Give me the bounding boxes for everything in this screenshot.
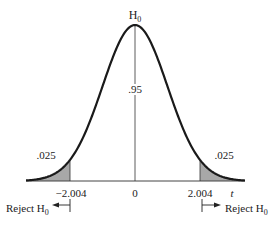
arrow-left-icon <box>52 203 59 208</box>
tick-center: 0 <box>132 187 138 199</box>
tick-right: 2.004 <box>188 187 213 199</box>
hypothesis-label: H0 <box>129 8 142 24</box>
left-tail-label: .025 <box>36 149 56 161</box>
reject-left-label: Reject H0 <box>6 202 49 217</box>
tick-left: −2.004 <box>56 187 87 199</box>
t-distribution-figure: H0 .95 .025 .025 −2.004 0 2.004 t Reject… <box>0 0 278 227</box>
arrow-right-icon <box>214 203 221 208</box>
reject-right-label: Reject H0 <box>225 202 268 217</box>
density-curve <box>26 25 245 180</box>
center-area-label: .95 <box>128 83 142 95</box>
axis-label-t: t <box>230 187 234 199</box>
right-tail-label: .025 <box>214 149 234 161</box>
left-rejection-region <box>26 160 70 181</box>
